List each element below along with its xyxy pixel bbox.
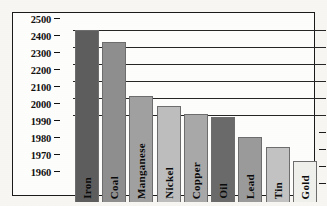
bar-label: Manganese bbox=[135, 143, 147, 199]
y-axis-labels: 2500240023002200210020001990198019701960 bbox=[14, 14, 60, 194]
y-axis-tick-label: 2200 bbox=[31, 65, 51, 76]
y-axis-tick-mark bbox=[54, 154, 60, 155]
bar-iron: Iron bbox=[75, 30, 99, 202]
y-axis-tick-2200: 2200 bbox=[14, 64, 60, 76]
y-axis-tick-1990: 1990 bbox=[14, 115, 60, 127]
bar-label-wrap: Coal bbox=[103, 125, 125, 199]
y-axis-tick-2100: 2100 bbox=[14, 81, 60, 93]
bar-label: Lead bbox=[244, 174, 256, 199]
bar-label-wrap: Iron bbox=[76, 125, 98, 199]
bar-label-wrap: Copper bbox=[185, 125, 207, 199]
bar-copper: Copper bbox=[184, 114, 208, 202]
bar-label-wrap: Lead bbox=[239, 137, 261, 199]
bar-manganese: Manganese bbox=[129, 96, 153, 202]
bar-label: Copper bbox=[190, 162, 202, 199]
y-axis-tick-label: 2000 bbox=[31, 99, 51, 110]
y-axis-tick-label: 2500 bbox=[31, 14, 51, 25]
bar-label-wrap: Oil bbox=[212, 125, 234, 199]
y-axis-tick-mark bbox=[54, 35, 60, 36]
bar-series: IronCoalManganeseNickelCopperOilLeadTinG… bbox=[73, 26, 326, 206]
y-axis-tick-mark bbox=[54, 171, 60, 172]
y-axis-tick-mark bbox=[54, 120, 60, 121]
y-axis-tick-mark bbox=[54, 52, 60, 53]
y-axis-tick-mark bbox=[54, 137, 60, 138]
y-axis-tick-1980: 1980 bbox=[14, 132, 60, 144]
bar-label-wrap: Tin bbox=[267, 147, 289, 199]
y-axis-tick-2500: 2500 bbox=[14, 13, 60, 25]
bar-lead: Lead bbox=[238, 137, 262, 202]
y-axis-tick-mark bbox=[54, 18, 60, 19]
bar-label-wrap: Gold bbox=[294, 161, 316, 199]
y-axis-tick-label: 1990 bbox=[31, 116, 51, 127]
y-axis-tick-label: 1960 bbox=[31, 167, 51, 178]
bar-label: Coal bbox=[108, 176, 120, 199]
y-axis-tick-1960: 1960 bbox=[14, 166, 60, 178]
bar-gold: Gold bbox=[293, 161, 317, 202]
bar-label: Tin bbox=[272, 182, 284, 199]
bar-label: Nickel bbox=[163, 167, 175, 199]
y-axis-tick-label: 1970 bbox=[31, 150, 51, 161]
y-axis-tick-label: 2300 bbox=[31, 48, 51, 59]
y-axis-tick-2000: 2000 bbox=[14, 98, 60, 110]
y-axis-tick-mark bbox=[54, 86, 60, 87]
y-axis-tick-2300: 2300 bbox=[14, 47, 60, 59]
bar-label: Gold bbox=[299, 175, 311, 199]
y-axis-tick-mark bbox=[54, 69, 60, 70]
bar-coal: Coal bbox=[102, 42, 126, 202]
bar-tin: Tin bbox=[266, 147, 290, 202]
scanned-page: IronCoalManganeseNickelCopperOilLeadTinG… bbox=[0, 0, 327, 206]
bar-label: Oil bbox=[217, 183, 229, 199]
y-axis-tick-label: 1980 bbox=[31, 133, 51, 144]
bar-label-wrap: Nickel bbox=[158, 125, 180, 199]
y-axis-tick-2400: 2400 bbox=[14, 30, 60, 42]
y-axis-tick-label: 2100 bbox=[31, 82, 51, 93]
y-axis-tick-1970: 1970 bbox=[14, 149, 60, 161]
bar-label-wrap: Manganese bbox=[130, 125, 152, 199]
y-axis-tick-mark bbox=[54, 103, 60, 104]
bar-oil: Oil bbox=[211, 117, 235, 202]
bar-nickel: Nickel bbox=[157, 106, 181, 202]
y-axis-tick-label: 2400 bbox=[31, 31, 51, 42]
plot-area: IronCoalManganeseNickelCopperOilLeadTinG… bbox=[73, 26, 326, 206]
bar-label: Iron bbox=[81, 177, 93, 199]
